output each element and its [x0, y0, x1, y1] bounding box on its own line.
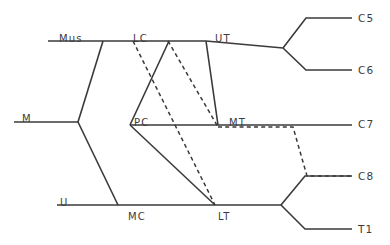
node-label-lt: LT — [218, 212, 231, 222]
leaf-label-c6: C6 — [358, 65, 374, 76]
branch-lt-fork-upper-c8 — [281, 176, 352, 205]
node-label-mc: MC — [128, 212, 146, 222]
node-label-lc: LC — [133, 34, 148, 44]
branch-m-to-mus — [78, 41, 103, 122]
branch-lc-to-pc — [130, 41, 169, 125]
branch-ut-fork-upper-c5 — [283, 18, 352, 48]
node-label-mt: MT — [229, 118, 246, 128]
phylogenetic-tree-diagram: Mus LC UT M PC MT U MC LT C5 C6 C7 C8 T1 — [0, 0, 390, 245]
node-label-ut: UT — [215, 34, 231, 44]
branch-dashed-lc-to-mt — [168, 41, 218, 127]
node-label-u: U — [60, 198, 68, 208]
node-label-m: M — [22, 114, 32, 124]
node-label-pc: PC — [134, 118, 149, 128]
leaf-label-c8: C8 — [358, 171, 374, 182]
branch-ut-fork-lower-c6 — [283, 48, 352, 70]
branch-lt-fork-lower-t1 — [281, 205, 352, 229]
branch-m-to-u — [78, 122, 118, 205]
node-label-mus: Mus — [59, 34, 82, 44]
branch-pc-to-lt — [130, 125, 215, 205]
branch-ut-to-mt — [206, 41, 218, 125]
leaf-label-c7: C7 — [358, 119, 374, 130]
branch-dashed-mt-to-c8 — [218, 127, 352, 176]
leaf-label-t1: T1 — [358, 224, 373, 235]
leaf-label-c5: C5 — [358, 13, 374, 24]
